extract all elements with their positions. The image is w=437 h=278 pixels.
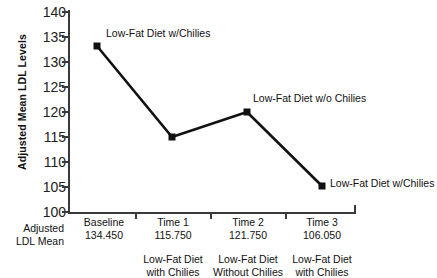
y-tick-label: 130: [28, 55, 66, 69]
category-desc-line1: Low-Fat Diet: [286, 253, 358, 266]
category-value: 134.450: [68, 229, 140, 242]
axis-stub-label: Adjusted LDL Mean: [0, 222, 64, 247]
category-table: Baseline 134.450 Time 1 115.750 Low-Fat …: [68, 216, 356, 278]
y-tick-label: 135: [28, 30, 66, 44]
category-desc: Low-Fat Diet with Chilies: [286, 253, 358, 278]
plot-area: [68, 10, 356, 214]
category-desc-line1: Low-Fat Diet: [137, 253, 209, 266]
category-value: 121.750: [210, 229, 286, 242]
y-tick-label: 110: [28, 155, 66, 169]
point-annotation-time3: Low-Fat Diet w/Chilies: [330, 178, 434, 189]
data-point-marker: [169, 134, 176, 141]
y-tick-label: 140: [28, 5, 66, 19]
series-polyline: [97, 46, 322, 186]
category-desc-line2: with Chilies: [286, 266, 358, 278]
data-point-marker: [244, 109, 251, 116]
ldl-line-chart: Adjusted Mean LDL Levels 140 135 130 125…: [0, 0, 437, 278]
y-tick-label: 125: [28, 80, 66, 94]
category-column-time2: Time 2 121.750 Low-Fat Diet Without Chil…: [210, 216, 286, 278]
category-desc: Low-Fat Diet Without Chilies: [210, 253, 286, 278]
y-tick-label: 120: [28, 105, 66, 119]
data-point-marker: [94, 43, 101, 50]
y-tick-label: 105: [28, 180, 66, 194]
y-tick-label: 100: [28, 205, 66, 219]
category-column-baseline: Baseline 134.450: [68, 216, 140, 253]
category-name: Baseline: [68, 216, 140, 229]
point-annotation-time2: Low-Fat Diet w/o Chilies: [253, 93, 366, 104]
category-value: 106.050: [286, 229, 358, 242]
category-name: Time 2: [210, 216, 286, 229]
category-desc-line2: with Chilies: [137, 266, 209, 278]
category-desc-line1: Low-Fat Diet: [210, 253, 286, 266]
data-point-marker: [319, 183, 326, 190]
data-series-line: [68, 10, 356, 214]
category-column-time3: Time 3 106.050 Low-Fat Diet with Chilies: [286, 216, 358, 278]
category-name: Time 3: [286, 216, 358, 229]
axis-stub-line1: Adjusted: [23, 222, 64, 234]
y-tick-label: 115: [28, 130, 66, 144]
point-annotation-baseline: Low-Fat Diet w/Chilies: [106, 28, 210, 39]
category-desc: Low-Fat Diet with Chilies: [137, 253, 209, 278]
category-desc-line2: Without Chilies: [210, 266, 286, 278]
axis-stub-line2: LDL Mean: [16, 235, 64, 247]
category-name: Time 1: [137, 216, 209, 229]
category-column-time1: Time 1 115.750 Low-Fat Diet with Chilies: [137, 216, 209, 278]
category-value: 115.750: [137, 229, 209, 242]
